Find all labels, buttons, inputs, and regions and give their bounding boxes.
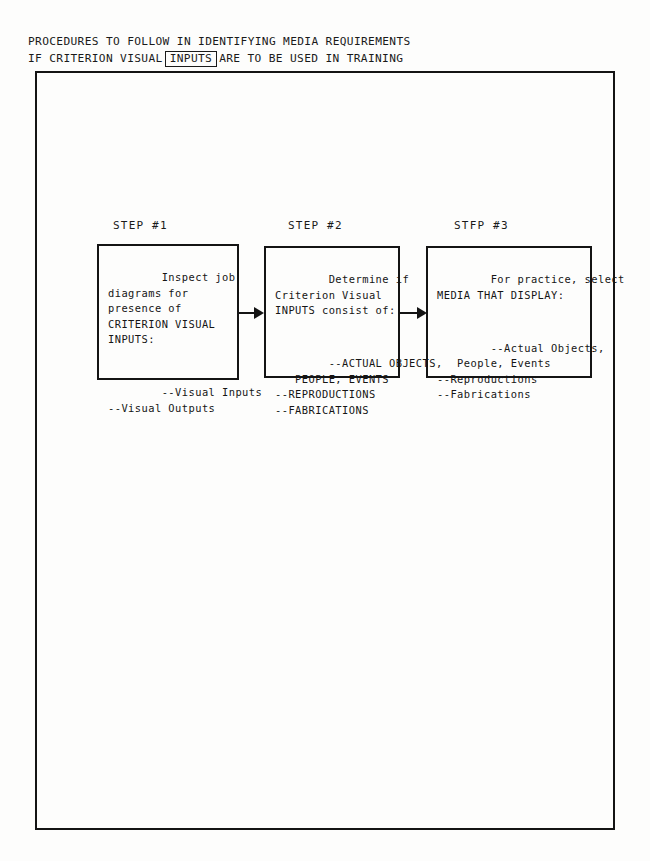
flow-box-step-1: Inspect job diagrams for presence of CRI… [97, 244, 239, 380]
arrow-head [254, 307, 264, 319]
flow-box-step-1-text: Inspect job diagrams for presence of CRI… [108, 255, 232, 431]
step-label-1: STEP #1 [113, 219, 168, 232]
flow-box-step-2: Determine if Criterion Visual INPUTS con… [264, 246, 400, 378]
flow-box-step-3-bottom: --Actual Objects, People, Events --Repro… [437, 342, 605, 400]
arrow-step1-to-step2-icon [239, 307, 264, 319]
flow-box-step-1-bottom: --Visual Inputs --Visual Outputs [108, 386, 262, 413]
spacer [108, 363, 232, 370]
arrow-shaft [400, 312, 418, 314]
arrow-step2-to-step3-icon [400, 307, 427, 319]
flow-box-step-2-text: Determine if Criterion Visual INPUTS con… [275, 257, 393, 433]
title-line-1: PROCEDURES TO FOLLOW IN IDENTIFYING MEDI… [28, 33, 498, 50]
document-title: PROCEDURES TO FOLLOW IN IDENTIFYING MEDI… [28, 33, 498, 67]
spacer [275, 334, 393, 341]
flow-box-step-3: For practice, select MEDIA THAT DISPLAY:… [426, 246, 592, 378]
step-label-3: STFP #3 [454, 219, 509, 232]
flow-box-step-2-top: Determine if Criterion Visual INPUTS con… [275, 273, 409, 316]
flow-box-step-3-text: For practice, select MEDIA THAT DISPLAY:… [437, 257, 585, 418]
boxed-word-inputs: INPUTS [165, 51, 218, 67]
flow-box-step-2-bottom: --ACTUAL OBJECTS, PEOPLE, EVENTS --REPRO… [275, 357, 443, 415]
title-line-2: IF CRITERION VISUAL INPUTS ARE TO BE USE… [28, 50, 498, 67]
title-line-2-before: IF CRITERION VISUAL [28, 50, 163, 67]
spacer [437, 319, 585, 326]
arrow-shaft [239, 312, 255, 314]
title-line-2-after: ARE TO BE USED IN TRAINING [219, 50, 403, 67]
diagram-frame: STEP #1 Inspect job diagrams for presenc… [35, 71, 615, 830]
page-canvas: PROCEDURES TO FOLLOW IN IDENTIFYING MEDI… [0, 0, 650, 861]
flow-box-step-1-top: Inspect job diagrams for presence of CRI… [108, 271, 235, 345]
flow-box-step-3-top: For practice, select MEDIA THAT DISPLAY: [437, 273, 625, 300]
step-label-2: STEP #2 [288, 219, 343, 232]
